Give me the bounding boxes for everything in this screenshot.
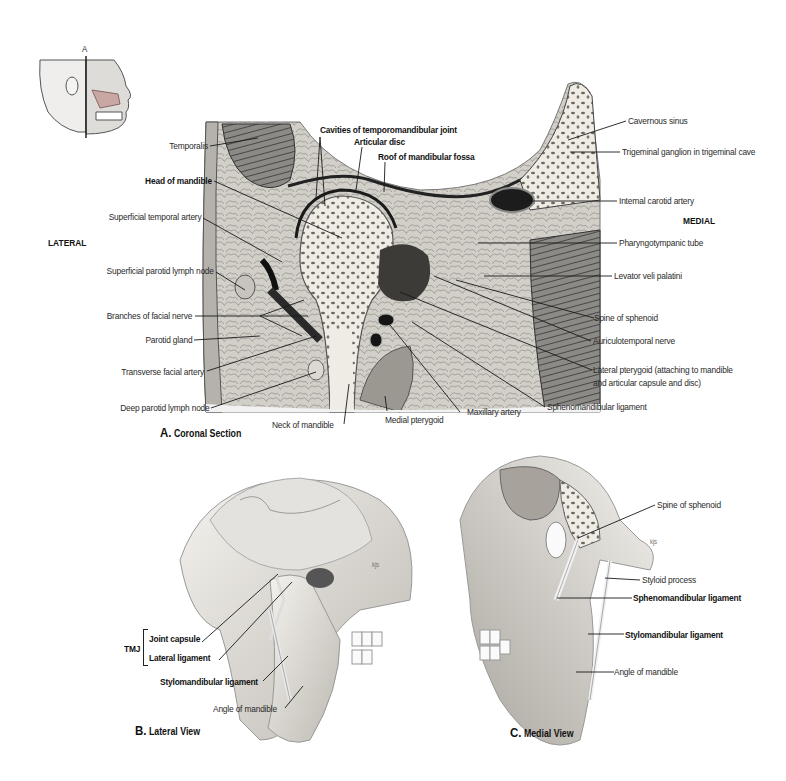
label-internal-carotid-artery: Internal carotid artery	[619, 195, 694, 206]
label-tmj-group: TMJ	[124, 643, 140, 654]
lateral-side-label: LATERAL	[48, 237, 86, 248]
label-roof-mandibular-fossa: Roof of mandibular fossa	[378, 151, 475, 162]
label-superficial-parotid-lymph-node: Superficial parotid lymph node	[107, 265, 214, 276]
label-spine-of-sphenoid: Spine of sphenoid	[594, 312, 658, 323]
label-branches-facial-nerve: Branches of facial nerve	[107, 310, 192, 321]
label-deep-parotid-lymph-node: Deep parotid lymph node	[121, 402, 210, 413]
label-spine-of-sphenoid-c: Spine of sphenoid	[657, 499, 721, 510]
label-articular-disc: Articular disc	[354, 136, 405, 147]
label-trigeminal-ganglion: Trigeminal ganglion in trigeminal cave	[622, 146, 755, 157]
label-sphenomandibular-ligament-c: Sphenomandibular ligament	[633, 592, 741, 603]
caption-panel-a: A. Coronal Section	[160, 425, 241, 440]
caption-letter-a: A.	[160, 425, 171, 440]
label-stylomandibular-ligament-c: Stylomandibular ligament	[625, 629, 723, 640]
label-maxillary-artery: Maxillary artery	[467, 406, 521, 417]
label-head-of-mandible: Head of mandible	[145, 175, 212, 186]
caption-text-c: Medial View	[524, 728, 574, 739]
medial-side-label: MEDIAL	[683, 215, 715, 226]
label-angle-of-mandible-b: Angle of mandible	[213, 703, 277, 714]
label-parotid-gland: Parotid gland	[145, 334, 192, 345]
label-angle-of-mandible-c: Angle of mandible	[614, 666, 678, 677]
label-transverse-facial-artery: Transverse facial artery	[121, 366, 204, 377]
label-cavities-tmj: Cavities of temporomandibular joint	[320, 124, 457, 135]
label-cavernous-sinus: Cavernous sinus	[628, 115, 688, 126]
label-neck-of-mandible: Neck of mandible	[272, 419, 334, 430]
label-stylomandibular-ligament-b: Stylomandibular ligament	[160, 676, 258, 687]
label-auriculotemporal-nerve: Auriculotemporal nerve	[593, 335, 675, 346]
label-lateral-pterygoid-line1: Lateral pterygoid (attaching to mandible	[593, 364, 733, 375]
caption-text-a: Coronal Section	[174, 428, 241, 439]
caption-letter-b: B.	[135, 723, 146, 738]
artist-signature-b: kjs	[372, 561, 379, 568]
label-superficial-temporal-artery: Superficial temporal artery	[108, 211, 201, 222]
label-levator-veli-palatini: Levator veli palatini	[614, 270, 682, 281]
caption-letter-c: C.	[510, 725, 521, 740]
label-pharyngotympanic-tube: Pharyngotympanic tube	[619, 237, 703, 248]
medial-view-illustration	[460, 456, 653, 745]
label-lateral-ligament: Lateral ligament	[149, 652, 210, 663]
label-temporalis: Temporalis	[169, 140, 208, 151]
caption-text-b: Lateral View	[149, 726, 200, 737]
caption-panel-b: B. Lateral View	[135, 723, 200, 738]
section-plane-label: A	[82, 44, 87, 54]
tmj-bracket	[143, 629, 148, 666]
artist-signature-c: kjs	[650, 538, 657, 545]
label-styloid-process: Styloid process	[642, 574, 696, 585]
label-joint-capsule: Joint capsule	[149, 633, 200, 644]
label-medial-pterygoid: Medial pterygoid	[385, 414, 444, 425]
caption-panel-c: C. Medial View	[510, 725, 574, 740]
label-sphenomandibular-ligament-a: Sphenomandibular ligament	[547, 401, 647, 412]
orientation-head-figure	[40, 56, 131, 138]
label-lateral-pterygoid-line2: and articular capsule and disc)	[593, 377, 701, 388]
